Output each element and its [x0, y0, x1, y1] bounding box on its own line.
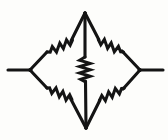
upper-right-resistor	[98, 39, 123, 52]
bridge-wire-lower	[86, 81, 87, 128]
lower-right-resistor	[99, 88, 124, 101]
bridge-resistor	[80, 57, 91, 82]
center-bridge-branch	[80, 13, 91, 128]
wheatstone-bridge-figure: Wheatstone bridge circuit Diamond-shaped…	[0, 0, 168, 140]
upper-left-wire-lower	[30, 52, 47, 70]
upper-right-wire-lower	[122, 51, 140, 70]
right-node	[138, 68, 141, 71]
upper-left-wire-upper	[71, 13, 85, 41]
lower-left-branch	[30, 70, 86, 128]
upper-left-resistor	[47, 40, 73, 52]
lower-left-resistor	[47, 88, 72, 100]
lower-right-wire-lower	[86, 100, 100, 128]
bottom-node	[84, 126, 87, 129]
top-node	[83, 11, 86, 14]
lower-left-wire-upper	[30, 70, 47, 88]
left-node	[28, 68, 31, 71]
lower-right-branch	[86, 70, 140, 128]
lower-left-wire-lower	[71, 99, 87, 129]
upper-right-wire-upper	[85, 13, 99, 40]
upper-left-branch	[30, 13, 85, 70]
upper-right-branch	[85, 13, 140, 70]
lower-right-wire-upper	[123, 70, 140, 89]
circuit-schematic-canvas	[0, 0, 168, 140]
